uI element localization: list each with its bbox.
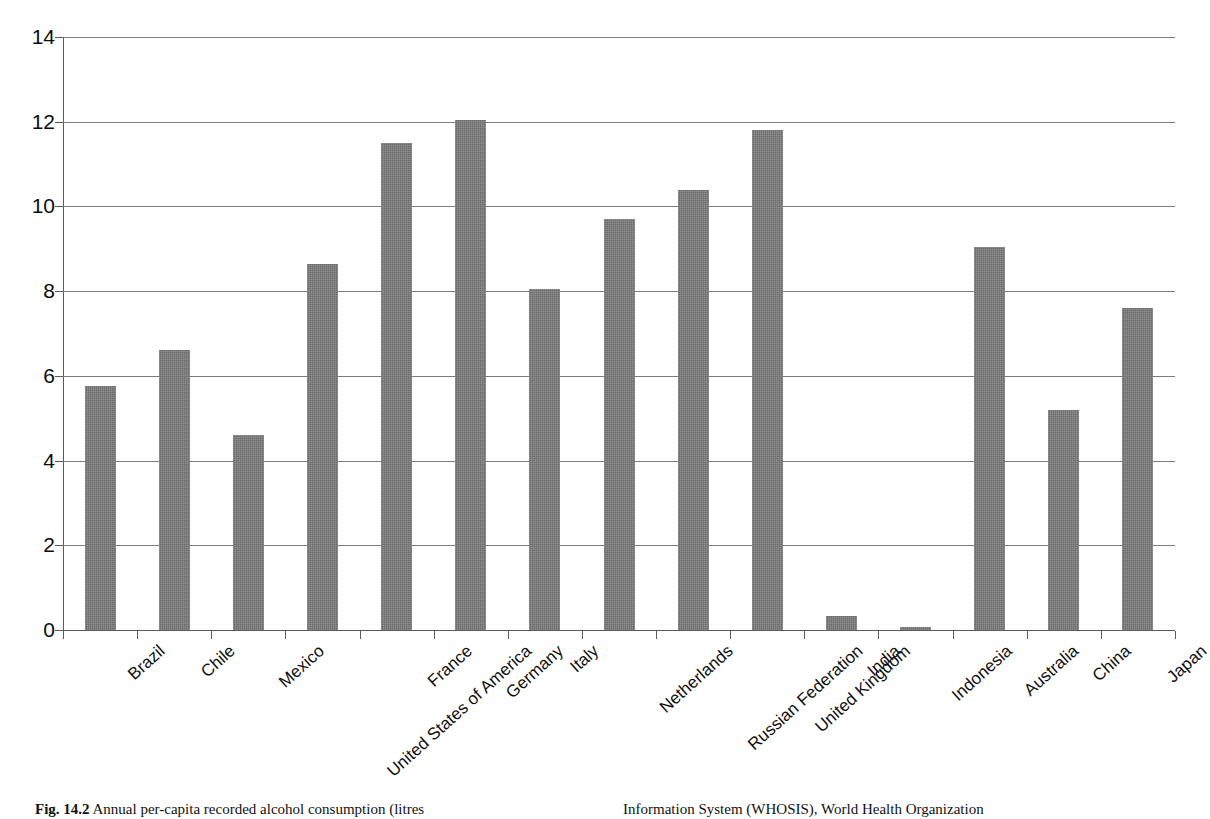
caption-text-right: Information System (WHOSIS), World Healt…	[623, 801, 984, 817]
x-tick-label-australia: Australia	[1021, 642, 1082, 700]
y-tick-mark-10	[55, 206, 63, 207]
x-tick-mark-9	[730, 631, 731, 639]
x-tick-mark-0	[63, 631, 64, 639]
x-tick-mark-13	[1027, 631, 1028, 639]
x-tick-mark-end	[1175, 631, 1176, 639]
x-tick-label-netherlands: Netherlands	[657, 642, 737, 717]
bar-netherlands	[604, 219, 635, 630]
x-tick-label-china: China	[1089, 642, 1134, 685]
x-tick-label-japan: Japan	[1164, 642, 1210, 686]
x-tick-mark-12	[953, 631, 954, 639]
bar-australia	[974, 247, 1005, 630]
caption-figure-number: Fig. 14.2	[35, 801, 90, 817]
x-tick-mark-8	[656, 631, 657, 639]
caption-text-left: Annual per-capita recorded alcohol consu…	[93, 801, 425, 817]
x-tick-label-mexico: Mexico	[276, 642, 328, 691]
gridline-12	[63, 122, 1175, 123]
bar-brazil	[85, 386, 116, 630]
bar-russian-federation	[678, 190, 709, 631]
figure-caption: Fig. 14.2 Annual per-capita recorded alc…	[35, 800, 1175, 819]
caption-column-left: Fig. 14.2 Annual per-capita recorded alc…	[35, 800, 587, 819]
y-tick-mark-6	[55, 376, 63, 377]
y-tick-mark-8	[55, 291, 63, 292]
x-tick-mark-10	[804, 631, 805, 639]
x-tick-mark-1	[137, 631, 138, 639]
bar-france	[381, 143, 412, 630]
y-tick-label-2: 2	[15, 534, 55, 555]
gridline-14	[63, 37, 1175, 38]
y-tick-label-8: 8	[15, 280, 55, 301]
bar-mexico	[233, 435, 264, 630]
y-tick-mark-12	[55, 122, 63, 123]
bar-united-kingdom	[752, 130, 783, 630]
bar-china	[1048, 410, 1079, 630]
x-tick-mark-7	[582, 631, 583, 639]
y-tick-label-0: 0	[15, 619, 55, 640]
x-tick-mark-3	[285, 631, 286, 639]
x-tick-mark-4	[360, 631, 361, 639]
gridline-0	[63, 630, 1175, 631]
bar-united-states-of-america	[307, 264, 338, 630]
bar-italy	[529, 289, 560, 630]
y-tick-label-6: 6	[15, 365, 55, 386]
y-tick-label-14: 14	[15, 26, 55, 47]
y-tick-mark-4	[55, 461, 63, 462]
plot-area	[63, 37, 1175, 630]
x-tick-mark-2	[211, 631, 212, 639]
bar-germany	[455, 120, 486, 630]
y-tick-label-10: 10	[15, 195, 55, 216]
caption-column-right: Information System (WHOSIS), World Healt…	[623, 800, 1175, 819]
x-tick-label-chile: Chile	[198, 642, 239, 681]
bar-indonesia	[900, 627, 931, 630]
y-tick-mark-14	[55, 37, 63, 38]
bar-india	[826, 616, 857, 630]
x-tick-mark-5	[434, 631, 435, 639]
y-tick-mark-2	[55, 545, 63, 546]
x-tick-label-france: France	[424, 642, 475, 691]
x-tick-label-italy: Italy	[567, 642, 602, 676]
y-tick-label-4: 4	[15, 450, 55, 471]
bar-japan	[1122, 308, 1153, 630]
gridline-10	[63, 206, 1175, 207]
y-tick-mark-0	[55, 630, 63, 631]
x-tick-mark-11	[878, 631, 879, 639]
bar-chile	[159, 350, 190, 630]
x-tick-mark-14	[1101, 631, 1102, 639]
x-tick-label-brazil: Brazil	[125, 642, 169, 684]
y-tick-label-12: 12	[15, 111, 55, 132]
x-tick-label-indonesia: Indonesia	[948, 642, 1015, 705]
x-tick-mark-6	[508, 631, 509, 639]
